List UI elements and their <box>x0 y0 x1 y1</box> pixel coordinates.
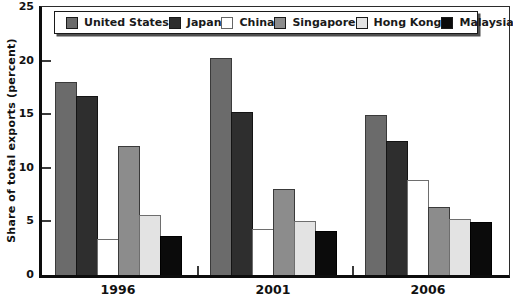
plot-area: United StatesJapanChinaSingaporeHong Kon… <box>39 6 510 278</box>
legend-swatch-icon <box>221 17 233 29</box>
bar-japan-2006 <box>386 141 408 275</box>
y-tick-mark <box>42 220 51 222</box>
legend-item-japan: Japan <box>169 16 222 29</box>
legend-label: China <box>239 16 274 29</box>
bar-singapore-2006 <box>428 207 450 275</box>
bar-china-2001 <box>252 229 274 275</box>
legend-label: Malaysia <box>459 16 513 29</box>
bar-china-1996 <box>97 239 119 275</box>
bar-united-states-2006 <box>365 115 387 275</box>
legend-swatch-icon <box>169 17 181 29</box>
y-tick-label: 5 <box>4 214 34 228</box>
y-tick-mark <box>42 113 51 115</box>
bar-singapore-2001 <box>273 189 295 275</box>
bar-malaysia-2001 <box>315 231 337 275</box>
legend-item-hong-kong: Hong Kong <box>356 16 442 29</box>
bar-japan-2001 <box>231 112 253 275</box>
y-tick-label: 25 <box>4 0 34 14</box>
legend-item-malaysia: Malaysia <box>441 16 513 29</box>
x-axis-label-1996: 1996 <box>78 282 158 297</box>
legend-item-united-states: United States <box>66 16 169 29</box>
x-axis-label-2001: 2001 <box>233 282 313 297</box>
bar-group-1996 <box>55 7 181 275</box>
bar-china-2006 <box>407 180 429 275</box>
legend-label: Japan <box>187 16 222 29</box>
y-tick-mark <box>42 167 51 169</box>
legend-swatch-icon <box>356 17 368 29</box>
x-tick-mark <box>352 266 354 275</box>
bar-hong-kong-2006 <box>449 219 471 275</box>
x-axis-label-2006: 2006 <box>388 282 468 297</box>
bar-united-states-2001 <box>210 58 232 275</box>
legend-label: Singapore <box>292 16 355 29</box>
bar-singapore-1996 <box>118 146 140 275</box>
x-tick-mark <box>197 266 199 275</box>
legend-item-singapore: Singapore <box>274 16 355 29</box>
bar-group-2001 <box>210 7 336 275</box>
legend-label: Hong Kong <box>374 16 442 29</box>
bar-japan-1996 <box>76 96 98 275</box>
y-tick-label: 0 <box>4 268 34 282</box>
bar-group-2006 <box>365 7 491 275</box>
legend-swatch-icon <box>66 17 78 29</box>
bar-hong-kong-1996 <box>139 215 161 275</box>
y-tick-label: 15 <box>4 107 34 121</box>
y-tick-label: 10 <box>4 161 34 175</box>
legend-item-china: China <box>221 16 274 29</box>
bar-united-states-1996 <box>55 82 77 275</box>
bar-malaysia-1996 <box>160 236 182 275</box>
y-tick-mark <box>42 60 51 62</box>
bar-chart-figure: Share of total exports (percent) United … <box>0 0 513 301</box>
bar-malaysia-2006 <box>470 222 492 275</box>
legend-swatch-icon <box>441 17 453 29</box>
y-tick-label: 20 <box>4 54 34 68</box>
legend-label: United States <box>84 16 169 29</box>
legend-swatch-icon <box>274 17 286 29</box>
bar-hong-kong-2001 <box>294 221 316 275</box>
legend: United StatesJapanChinaSingaporeHong Kon… <box>54 11 478 34</box>
